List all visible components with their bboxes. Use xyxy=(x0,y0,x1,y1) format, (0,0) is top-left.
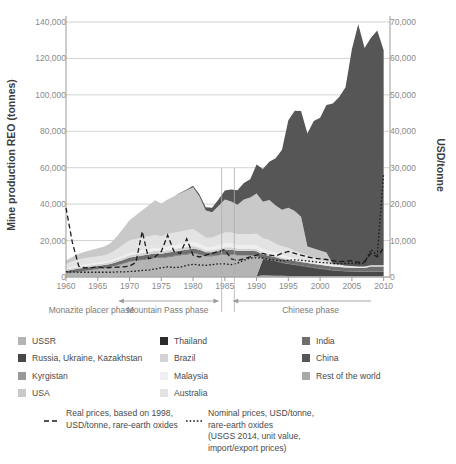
legend-swatch xyxy=(18,372,26,380)
legend-item[interactable]: Malaysia xyxy=(160,367,208,385)
legend-column: IndiaChinaRest of the world xyxy=(302,332,380,385)
legend-swatch xyxy=(160,337,168,345)
legend-column: USSRRussia, Ukraine, KazakhstanKyrgistan… xyxy=(18,332,142,402)
legend-swatch xyxy=(160,354,168,362)
price-legend-item[interactable]: Nominal prices, USD/tonne, rare-earth ox… xyxy=(186,408,314,454)
price-legend-item[interactable]: Real prices, based on 1998, USD/tonne, r… xyxy=(44,408,178,431)
legend-swatch xyxy=(18,354,26,362)
chart-plot-area xyxy=(0,0,456,330)
legend-swatch xyxy=(160,372,168,380)
price-legend-line-dotted xyxy=(186,411,202,419)
phase-arrow-head xyxy=(119,298,124,303)
phase-arrow-head xyxy=(213,298,218,303)
legend-label: USSR xyxy=(32,336,56,346)
legend-label: Rest of the world xyxy=(316,371,380,381)
legend-item[interactable]: Russia, Ukraine, Kazakhstan xyxy=(18,350,142,368)
price-legend-label: Nominal prices, USD/tonne, rare-earth ox… xyxy=(208,408,314,454)
legend-item[interactable]: Thailand xyxy=(160,332,208,350)
legend-column: ThailandBrazilMalaysiaAustralia xyxy=(160,332,208,402)
legend-item[interactable]: Brazil xyxy=(160,350,208,368)
price-legend-line-dashed xyxy=(44,411,60,419)
legend-item[interactable]: Rest of the world xyxy=(302,367,380,385)
legend-item[interactable]: Australia xyxy=(160,385,208,403)
legend-swatch xyxy=(18,337,26,345)
legend-swatch xyxy=(302,372,310,380)
legend-label: Russia, Ukraine, Kazakhstan xyxy=(32,353,142,363)
legend-label: Malaysia xyxy=(174,371,208,381)
legend-label: China xyxy=(316,353,338,363)
legend-swatch xyxy=(18,389,26,397)
legend-label: Kyrgistan xyxy=(32,371,68,381)
legend-item[interactable]: India xyxy=(302,332,380,350)
phase-arrow-head xyxy=(233,298,238,303)
legend-item[interactable]: Kyrgistan xyxy=(18,367,142,385)
legend-label: Thailand xyxy=(174,336,207,346)
legend-label: Australia xyxy=(174,388,207,398)
legend-item[interactable]: USSR xyxy=(18,332,142,350)
legend-item[interactable]: USA xyxy=(18,385,142,403)
legend-label: Brazil xyxy=(174,353,196,363)
price-legend-label: Real prices, based on 1998, USD/tonne, r… xyxy=(66,408,178,431)
legend-label: USA xyxy=(32,388,50,398)
chart-root: Mine production REO (tonnes) USD/tonne 0… xyxy=(0,0,456,464)
legend-swatch xyxy=(160,389,168,397)
legend-item[interactable]: China xyxy=(302,350,380,368)
legend-swatch xyxy=(302,337,310,345)
legend-swatch xyxy=(302,354,310,362)
legend-label: India xyxy=(316,336,335,346)
